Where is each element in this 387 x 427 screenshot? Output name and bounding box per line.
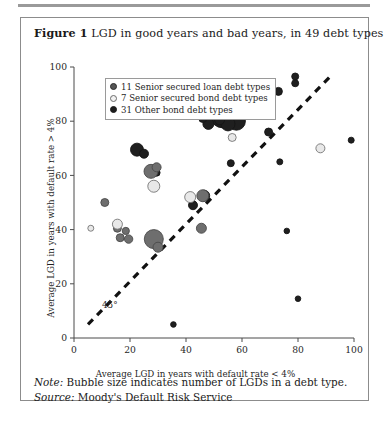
legend-swatch-loan-icon	[110, 83, 117, 90]
figure-container: Figure 1 LGD in good years and bad years…	[20, 17, 369, 401]
svg-text:100: 100	[49, 61, 67, 72]
note-label: Note:	[34, 376, 63, 388]
svg-text:40: 40	[55, 224, 67, 235]
source-text: Moody's Default Risk Service	[78, 391, 233, 403]
legend-swatch-other-bond-icon	[110, 106, 117, 113]
legend-item-loan: 11 Senior secured loan debt types	[110, 81, 270, 93]
svg-text:60: 60	[236, 344, 248, 355]
note-text: Bubble size indicates number of LGDs in …	[67, 376, 348, 388]
y-axis-title: Average LGD in years with default rate >…	[46, 98, 56, 338]
legend-label-other-bond: 31 Other bond debt types	[121, 105, 233, 115]
forty-five-degree-label: 45°	[102, 300, 118, 310]
legend-item-other-bond: 31 Other bond debt types	[110, 104, 270, 116]
svg-text:0: 0	[71, 344, 77, 355]
svg-text:100: 100	[345, 344, 363, 355]
svg-text:80: 80	[292, 344, 304, 355]
svg-text:0: 0	[61, 332, 67, 343]
figure-source: Source: Moody's Default Risk Service	[34, 391, 232, 403]
legend-label-loan: 11 Senior secured loan debt types	[121, 82, 270, 92]
chart-legend: 11 Senior secured loan debt types 7 Seni…	[105, 78, 276, 120]
legend-item-senior-secured-bond: 7 Senior secured bond debt types	[110, 93, 270, 105]
svg-text:60: 60	[55, 170, 67, 181]
page-top-rule	[18, 4, 370, 7]
svg-text:40: 40	[180, 344, 192, 355]
scatter-plot-svg: 020406080100 020406080100 45°	[21, 18, 370, 402]
svg-text:80: 80	[55, 115, 67, 126]
svg-text:20: 20	[124, 344, 136, 355]
svg-text:20: 20	[55, 278, 67, 289]
legend-label-senior-secured-bond: 7 Senior secured bond debt types	[121, 93, 268, 103]
x-axis-ticks: 020406080100	[71, 338, 363, 355]
plot-area: 020406080100 020406080100 45° 11 Senior …	[21, 18, 370, 402]
svg-text:45°: 45°	[102, 300, 118, 310]
legend-swatch-senior-secured-bond-icon	[110, 95, 117, 102]
source-label: Source:	[34, 391, 75, 403]
figure-note: Note: Bubble size indicates number of LG…	[34, 376, 347, 388]
